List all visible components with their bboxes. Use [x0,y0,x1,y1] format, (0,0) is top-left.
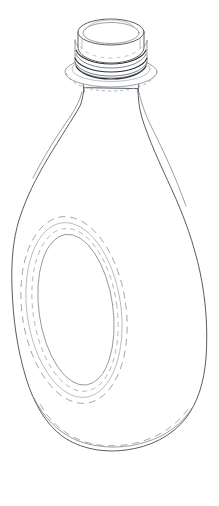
cap-group [78,19,144,63]
bottle-outline-path [12,88,207,451]
bottle-body-group [12,88,207,451]
bottle-line-drawing: Outline drawing of a bottle with a threa… [0,0,219,506]
